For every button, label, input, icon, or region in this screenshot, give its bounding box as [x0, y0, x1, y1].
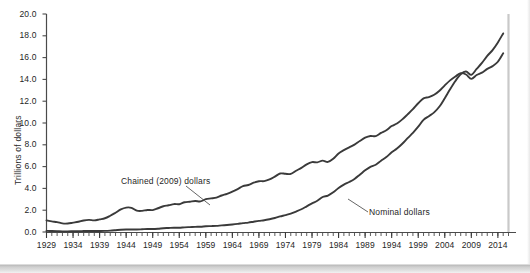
page-bottom-edge — [0, 264, 530, 273]
y-tick-label: 20.0 — [9, 9, 37, 19]
y-tick-label: 14.0 — [9, 74, 37, 84]
annotation-chained-dollars: Chained (2009) dollars — [121, 176, 210, 186]
y-tick-label: 18.0 — [9, 30, 37, 40]
y-tick-label: 16.0 — [9, 52, 37, 62]
chart-screenshot: Trillions of dollars 0.02.04.06.08.010.0… — [0, 0, 530, 273]
y-tick-label: 4.0 — [9, 183, 37, 193]
y-tick-label: 12.0 — [9, 96, 37, 106]
y-tick-label: 2.0 — [9, 205, 37, 215]
x-tick-label: 2014 — [481, 240, 515, 250]
axis-lines — [47, 14, 517, 233]
y-tick-label: 6.0 — [9, 161, 37, 171]
annotation-nominal-dollars: Nominal dollars — [369, 207, 430, 217]
series-line-chained-2009-dollars — [47, 53, 504, 223]
y-tick-label: 10.0 — [9, 118, 37, 128]
y-tick-label: 0.0 — [9, 227, 37, 237]
y-tick-label: 8.0 — [9, 139, 37, 149]
series-line-nominal-dollars — [47, 33, 504, 231]
gdp-line-chart — [0, 0, 530, 273]
leader-line-nominal — [348, 199, 368, 212]
